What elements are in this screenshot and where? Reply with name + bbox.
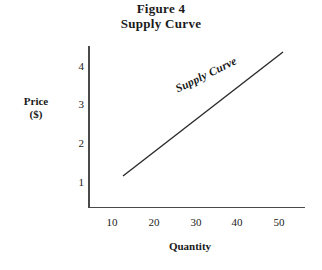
x-axis-title: Quantity [130, 240, 250, 252]
y-axis-title-line-1: Price [10, 95, 62, 108]
x-tick-label: 30 [181, 217, 211, 228]
plot-area [0, 0, 322, 270]
x-tick-label: 50 [264, 217, 294, 228]
y-axis-line [88, 46, 90, 208]
y-axis-title-line-2: ($) [10, 108, 62, 121]
x-tick-label: 40 [222, 217, 252, 228]
y-tick-label: 1 [62, 177, 84, 188]
x-axis-line [88, 207, 305, 209]
supply-curve-figure: Figure 4 Supply Curve 4 3 2 1 10 20 30 4… [0, 0, 322, 270]
y-tick-label: 2 [62, 138, 84, 149]
y-tick-label: 4 [62, 61, 84, 72]
y-tick-label: 3 [62, 99, 84, 110]
y-axis-title: Price ($) [10, 95, 62, 121]
x-tick-label: 10 [97, 217, 127, 228]
x-tick-label: 20 [139, 217, 169, 228]
supply-curve-line [0, 0, 322, 270]
